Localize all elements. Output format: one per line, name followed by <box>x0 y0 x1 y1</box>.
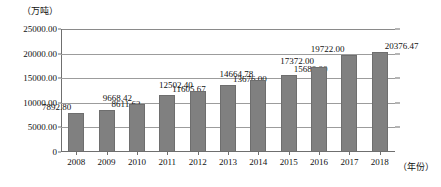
x-axis-unit-label: （年份） <box>398 160 434 173</box>
y-axis-right-tick-mark <box>395 53 400 54</box>
y-axis-right-tick-mark <box>395 78 400 79</box>
bar <box>250 80 266 152</box>
plot-area: 05000.0010000.0015000.0020000.0025000.00… <box>61 29 395 152</box>
y-axis-right-tick-mark <box>395 127 400 128</box>
bar-group: 15680.002015 <box>274 29 304 152</box>
bar-group: 8611.622009 <box>91 29 121 152</box>
bar-value-label: 19722.00 <box>311 45 345 54</box>
x-axis-tick-mark <box>349 152 350 155</box>
x-axis-tick-mark <box>198 152 199 155</box>
x-axis-tick-mark <box>167 152 168 155</box>
x-axis-tick-label: 2015 <box>280 157 298 167</box>
y-axis-tick-label: 5000.00 <box>28 122 57 132</box>
bar-group: 12502.402012 <box>182 29 212 152</box>
bar-value-label: 7892.80 <box>42 103 71 112</box>
bar-series: 7892.8020088611.6220099668.42201011605.6… <box>61 29 395 152</box>
bar <box>159 95 175 152</box>
x-axis-tick-mark <box>228 152 229 155</box>
x-axis-tick-label: 2018 <box>371 157 389 167</box>
y-axis-right-tick-mark <box>395 102 400 103</box>
bar <box>129 104 145 152</box>
x-axis-tick-label: 2012 <box>189 157 207 167</box>
y-axis-tick-label: 20000.00 <box>23 49 57 59</box>
x-axis-tick-mark <box>107 152 108 155</box>
bar-group: 20376.472018 <box>365 29 395 152</box>
bar <box>372 52 388 152</box>
x-axis-tick-label: 2008 <box>67 157 85 167</box>
bar-group: 11605.672011 <box>152 29 182 152</box>
bar <box>281 75 297 152</box>
bar <box>341 55 357 152</box>
x-axis-tick-mark <box>319 152 320 155</box>
bar <box>68 113 84 152</box>
bar <box>311 67 327 152</box>
x-axis-tick-mark <box>380 152 381 155</box>
x-axis-tick-label: 2016 <box>310 157 328 167</box>
x-axis-tick-label: 2010 <box>128 157 146 167</box>
y-axis-right-tick-mark <box>395 29 400 30</box>
x-axis-tick-label: 2013 <box>219 157 237 167</box>
bar-value-label: 17372.00 <box>280 57 314 66</box>
bar-group: 14664.782014 <box>243 29 273 152</box>
x-axis-tick-mark <box>137 152 138 155</box>
bar-group: 7892.802008 <box>61 29 91 152</box>
y-axis-tick-label: 25000.00 <box>23 24 57 34</box>
x-axis-tick-label: 2014 <box>249 157 267 167</box>
bar-group: 19722.002017 <box>334 29 364 152</box>
x-axis-tick-label: 2011 <box>158 157 176 167</box>
x-axis-tick-label: 2017 <box>340 157 358 167</box>
bar-value-label: 14664.78 <box>220 70 254 79</box>
bar-value-label: 12502.40 <box>159 81 193 90</box>
x-axis-tick-label: 2009 <box>98 157 116 167</box>
y-axis-tick-label: 0 <box>53 147 58 157</box>
y-axis-tick-label: 15000.00 <box>23 73 57 83</box>
y-axis-unit-label: （万吨） <box>22 4 58 17</box>
x-axis-tick-mark <box>258 152 259 155</box>
bar-group: 9668.422010 <box>122 29 152 152</box>
bar <box>220 85 236 152</box>
x-axis-tick-mark <box>76 152 77 155</box>
x-axis-tick-mark <box>289 152 290 155</box>
bar-value-label: 9668.42 <box>103 94 132 103</box>
bar-value-label: 20376.47 <box>385 42 419 51</box>
bar-chart: （万吨） 05000.0010000.0015000.0020000.00250… <box>0 0 441 187</box>
bar <box>190 91 206 153</box>
bar-group: 13676.002013 <box>213 29 243 152</box>
bar <box>99 110 115 152</box>
